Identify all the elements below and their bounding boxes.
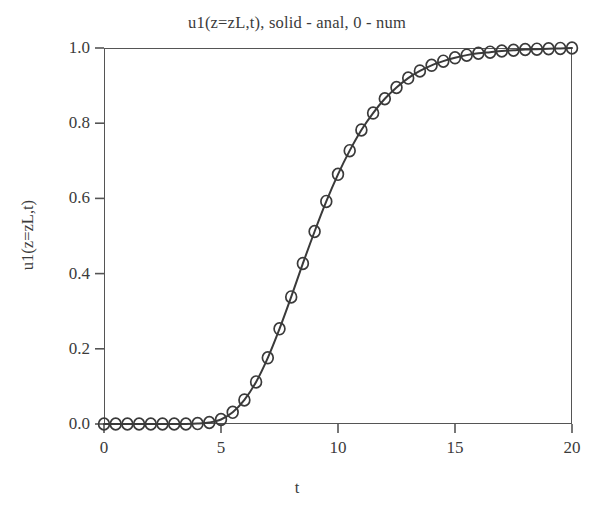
chart-figure: u1(z=zL,t), solid - anal, 0 - num u1(z=z… bbox=[0, 0, 594, 517]
y-tick-label: 0.2 bbox=[28, 339, 90, 359]
y-tick-label: 0.6 bbox=[28, 188, 90, 208]
x-tick-label: 10 bbox=[330, 438, 347, 458]
series-line-anal bbox=[104, 48, 572, 424]
x-axis-title: t bbox=[0, 478, 594, 498]
axis-ticks bbox=[95, 48, 572, 433]
y-tick-label: 0.4 bbox=[28, 264, 90, 284]
y-tick-label: 1.0 bbox=[28, 38, 90, 58]
y-tick-label: 0.0 bbox=[28, 414, 90, 434]
y-tick-label: 0.8 bbox=[28, 113, 90, 133]
plot-canvas bbox=[104, 48, 572, 424]
x-tick-label: 15 bbox=[447, 438, 464, 458]
x-tick-label: 20 bbox=[564, 438, 581, 458]
chart-title: u1(z=zL,t), solid - anal, 0 - num bbox=[0, 13, 594, 33]
x-tick-label: 0 bbox=[100, 438, 109, 458]
plot-area: 051015200.00.20.40.60.81.0 bbox=[104, 48, 572, 424]
y-axis-title: u1(z=zL,t) bbox=[18, 145, 38, 325]
x-tick-label: 5 bbox=[217, 438, 226, 458]
series-markers-num bbox=[99, 42, 578, 430]
